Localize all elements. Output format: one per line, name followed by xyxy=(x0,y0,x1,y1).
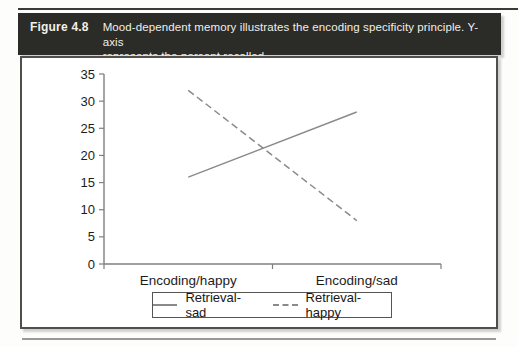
svg-text:25: 25 xyxy=(81,121,95,136)
legend-label: Retrieval-sad xyxy=(185,290,257,320)
legend-item-retrieval-sad: Retrieval-sad xyxy=(153,290,257,320)
top-rule xyxy=(18,8,518,10)
legend-label: Retrieval-happy xyxy=(306,290,391,320)
figure-caption-line-1: Mood-dependent memory illustrates the en… xyxy=(103,21,478,48)
svg-text:20: 20 xyxy=(81,148,95,163)
bottom-rule xyxy=(22,338,496,340)
svg-text:Encoding/happy: Encoding/happy xyxy=(140,273,237,288)
svg-text:10: 10 xyxy=(81,202,95,217)
figure-number-label: Figure 4.8 xyxy=(30,20,89,34)
svg-text:35: 35 xyxy=(81,67,95,82)
line-chart: 05101520253035Encoding/happyEncoding/sad xyxy=(22,58,496,327)
chart-legend: Retrieval-sadRetrieval-happy xyxy=(152,292,392,318)
svg-text:5: 5 xyxy=(88,229,95,244)
legend-item-retrieval-happy: Retrieval-happy xyxy=(273,290,391,320)
solid-line-sample-icon xyxy=(153,304,177,306)
svg-text:0: 0 xyxy=(88,257,95,272)
svg-text:30: 30 xyxy=(81,94,95,109)
svg-text:15: 15 xyxy=(81,175,95,190)
svg-text:Encoding/sad: Encoding/sad xyxy=(316,273,398,288)
chart-panel: 05101520253035Encoding/happyEncoding/sad… xyxy=(20,56,498,329)
dashed-line-sample-icon xyxy=(273,304,297,306)
figure-caption-bar: Figure 4.8 Mood-dependent memory illustr… xyxy=(18,13,501,55)
